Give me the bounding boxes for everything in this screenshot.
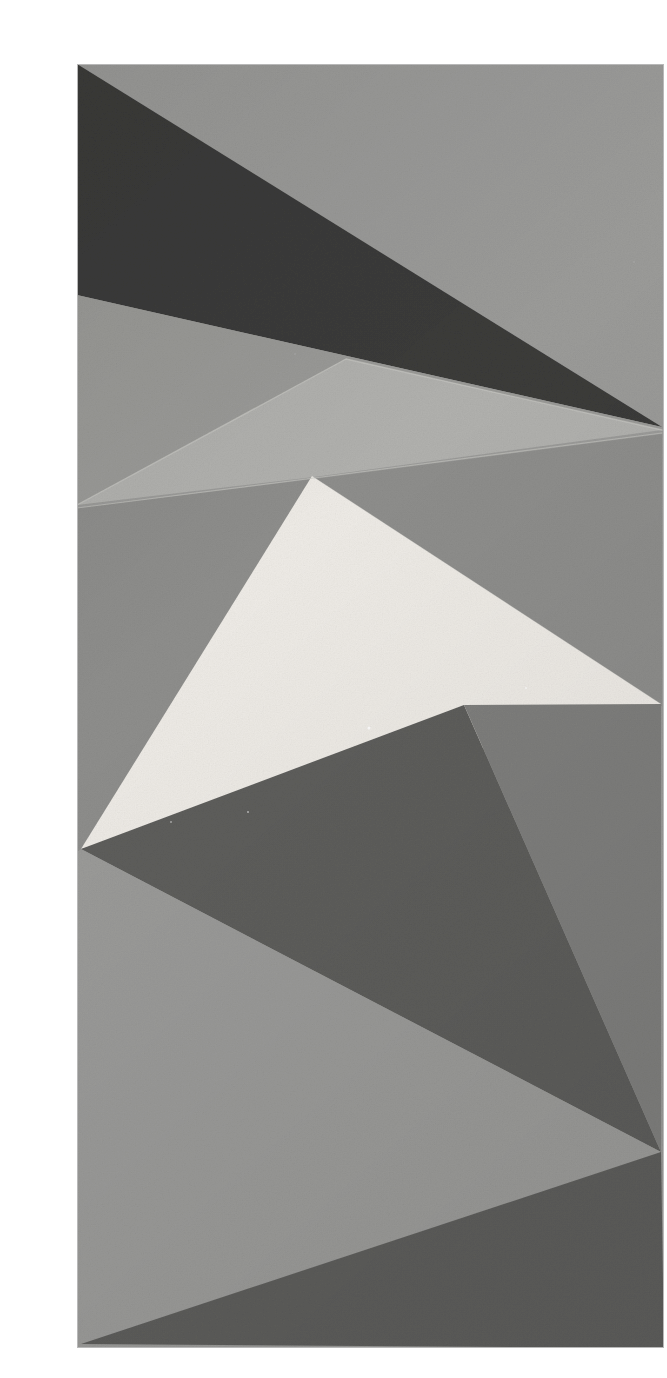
photo-facets-group [77,64,664,1348]
photo-canvas [40,16,667,1378]
page-root: Black and white photograph of a sheet of… [0,0,667,1378]
photo-vignette [77,64,664,1348]
folded-paper-photograph: Black and white photograph of a sheet of… [40,16,667,1378]
